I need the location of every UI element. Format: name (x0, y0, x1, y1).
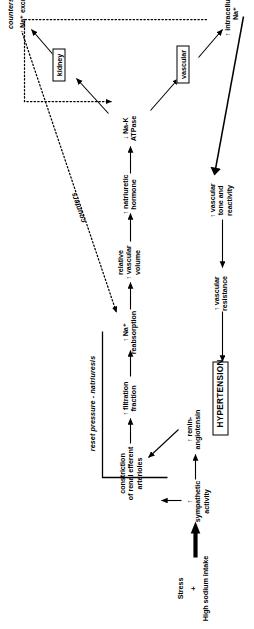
node-sympathetic-activity: ↑ sympathetic activity (185, 478, 210, 524)
node-counters-right: counters (6, 0, 14, 33)
node-stress: Stress (176, 565, 184, 611)
diagram-frame: Stress + High sodium intake ↑ sympatheti… (0, 0, 254, 629)
node-na-k-atpase: ↓ Na-K ATPase (121, 107, 138, 149)
node-high-sodium-intake-left: High sodium intake (201, 549, 209, 627)
node-kidney-box: kidney (52, 48, 65, 81)
arrow-renin-to-constriction (148, 429, 178, 457)
node-reset-pressure-natriuresis: reset pressure - natriuresis (88, 333, 96, 473)
node-relative-vascular-volume: relative ↑ vascular volume (116, 239, 141, 285)
node-renin-angiotensin: ↑ renin- angiotensin (185, 407, 202, 451)
node-hypertension: HYPERTENSION (212, 361, 228, 435)
arrow-vascular-to-intracellular (198, 29, 222, 57)
arrow-intake-to-sympathetic (190, 521, 200, 557)
node-plus-left: + (189, 580, 197, 596)
node-na-excretion: ↑ Na⁺ excretion (18, 0, 26, 45)
node-vascular-resistance: ↑ vascular resistance (212, 270, 229, 316)
node-filtration-fraction: ↑ filtration fraction (121, 374, 138, 422)
dotted-counters-left (22, 33, 116, 312)
node-constriction-renal-efferent-arterioles: constriction of renal efferent arteriole… (118, 443, 143, 503)
node-vascular-box: vascular (176, 45, 189, 83)
node-vascular-tone-reactivity: ↑ vascular tone and reactivity (208, 177, 233, 223)
arrow-atpase-to-vascular (150, 78, 178, 110)
node-intracellular-na: ↑ intracellular Na⁺ (223, 0, 240, 43)
node-na-reabsorption: ↑ Na⁺ reabsorption (121, 307, 138, 357)
node-natriuretic-hormone: ↑ natriuretic hormone (121, 169, 138, 219)
diagram-canvas: Stress + High sodium intake ↑ sympatheti… (0, 0, 254, 629)
arrow-atpase-to-kidney (76, 78, 108, 113)
